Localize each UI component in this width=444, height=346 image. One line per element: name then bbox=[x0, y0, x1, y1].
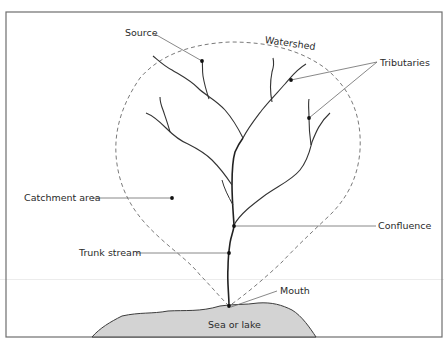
right-minor-branch bbox=[271, 58, 274, 102]
catchment-area-label: Catchment area bbox=[24, 193, 100, 203]
right-tributary-minor-branch bbox=[309, 99, 311, 145]
right-main-branch bbox=[243, 64, 306, 138]
tributaries-leader-lower bbox=[309, 62, 377, 118]
trunk-stream-point bbox=[227, 251, 231, 255]
left-main-branch bbox=[153, 56, 243, 138]
confluence-point bbox=[232, 224, 236, 228]
trunk-stream-label: Trunk stream bbox=[79, 248, 141, 258]
tributary-point-lower bbox=[307, 116, 311, 120]
catchment-area-point bbox=[170, 196, 174, 200]
mouth-point bbox=[227, 304, 231, 308]
source-branch bbox=[202, 60, 209, 99]
drainage-basin-diagram bbox=[0, 0, 444, 346]
tributaries-label: Tributaries bbox=[380, 58, 430, 68]
source-point bbox=[200, 59, 204, 63]
confluence-label: Confluence bbox=[378, 221, 431, 231]
leader-lines bbox=[92, 33, 377, 307]
sea-or-lake-label: Sea or lake bbox=[208, 320, 261, 330]
marker-points bbox=[170, 59, 311, 308]
tributary-point-upper bbox=[289, 78, 293, 82]
source-label: Source bbox=[125, 28, 158, 38]
mouth-label: Mouth bbox=[280, 286, 310, 296]
watershed-boundary bbox=[116, 42, 360, 306]
lower-left-branch bbox=[146, 113, 232, 185]
sea-or-lake-shape bbox=[92, 303, 316, 337]
